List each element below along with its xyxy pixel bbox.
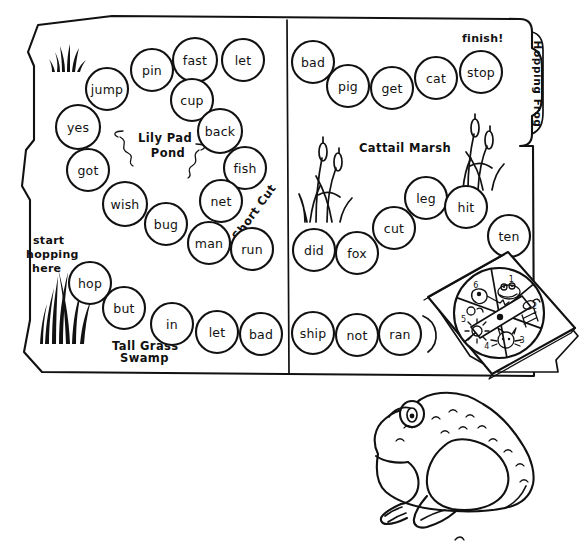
page-artifact xyxy=(0,0,583,548)
worksheet-page: Hopping Frog Lily Pad Pond Short Cut sta… xyxy=(0,0,583,548)
